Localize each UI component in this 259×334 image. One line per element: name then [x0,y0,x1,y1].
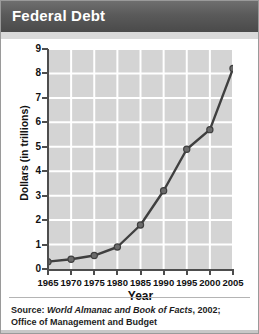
x-tick-mark [232,270,234,275]
x-tick-mark [140,270,142,275]
y-tick-label: 0 [27,264,41,274]
y-tick-label: 1 [27,240,41,250]
y-tick-mark [42,72,48,74]
x-axis-title: Year [48,289,233,303]
x-tick-mark [186,270,188,275]
y-tick-mark [42,244,48,246]
y-axis-title: Dollars (in trillions) [18,83,30,223]
federal-debt-chart-figure: Federal Debt 0123456789 1965197019751980… [0,0,259,334]
source-publication: World Almanac and Book of Facts [47,305,193,315]
y-tick-mark [42,219,48,221]
y-axis-line [47,49,49,270]
y-tick-mark [42,97,48,99]
footer-bar [1,330,258,333]
line-chart-svg [48,49,233,269]
chart-header-bar: Federal Debt [1,1,258,32]
source-prefix: Source: [11,305,47,315]
source-note: Source: World Almanac and Book of Facts,… [11,304,251,328]
source-suffix: , 2002; [193,305,221,315]
plot-area [48,49,233,269]
x-tick-label: 2005 [216,277,250,288]
y-tick-label: 9 [27,44,41,54]
y-tick-mark [42,195,48,197]
y-tick-label: 8 [27,68,41,78]
y-tick-mark [42,170,48,172]
source-divider [9,297,250,298]
source-line-two: Office of Management and Budget [11,316,251,328]
x-tick-mark [47,270,49,275]
x-tick-mark [116,270,118,275]
y-tick-mark [42,121,48,123]
x-tick-mark [163,270,165,275]
source-line-one: Source: World Almanac and Book of Facts,… [11,304,251,316]
y-tick-mark [42,146,48,148]
x-tick-mark [93,270,95,275]
x-tick-mark [70,270,72,275]
chart-plot-region: 0123456789 19651970197519801985199019952… [1,39,258,295]
header-underline [1,32,258,39]
x-tick-mark [209,270,211,275]
y-tick-mark [42,48,48,50]
page-title: Federal Debt [12,7,105,24]
